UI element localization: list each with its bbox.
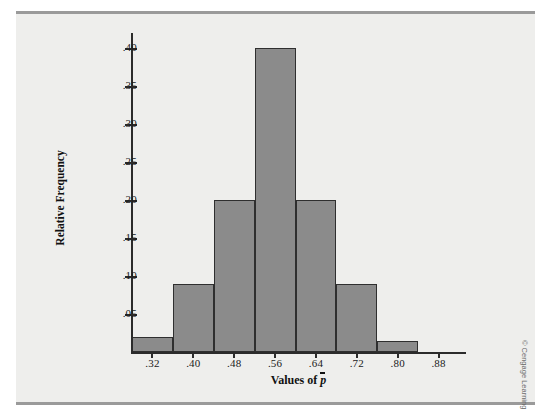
x-axis-tick-label: .48: [214, 357, 254, 369]
y-axis-tick-label: .10: [103, 269, 137, 281]
copyright-credit: © Cengage Learning: [520, 340, 529, 409]
x-axis-line: [131, 352, 466, 354]
histogram-bar: [336, 284, 377, 352]
y-axis-tick-label: .05: [103, 307, 137, 319]
histogram-bar: [173, 284, 214, 352]
histogram-plot: .05.10.15.20.25.30.35.40 .32.40.48.56.64…: [0, 0, 551, 417]
x-axis-tick-label: .32: [132, 357, 172, 369]
histogram-bar: [132, 337, 173, 352]
x-axis-title: Values of p: [131, 373, 466, 388]
x-axis-title-prefix: Values of: [271, 373, 321, 387]
y-axis-tick-label: .30: [103, 117, 137, 129]
x-axis-tick-label: .64: [296, 357, 336, 369]
p-bar-symbol: p: [320, 373, 326, 388]
y-axis-tick-label: .20: [103, 193, 137, 205]
y-axis-tick-label: .40: [103, 41, 137, 53]
x-axis-tick-label: .40: [173, 357, 213, 369]
histogram-bar: [214, 200, 255, 352]
histogram-bar: [255, 48, 296, 352]
x-axis-tick-label: .80: [378, 357, 418, 369]
histogram-bar: [377, 341, 418, 352]
y-axis-tick-label: .15: [103, 231, 137, 243]
x-axis-tick-label: .88: [419, 357, 459, 369]
x-axis-tick-label: .72: [337, 357, 377, 369]
histogram-bar: [296, 200, 337, 352]
x-axis-tick-label: .56: [255, 357, 295, 369]
figure-container: .05.10.15.20.25.30.35.40 .32.40.48.56.64…: [0, 0, 551, 417]
y-axis-title: Relative Frequency: [54, 118, 66, 278]
y-axis-tick-label: .35: [103, 79, 137, 91]
y-axis-tick-label: .25: [103, 155, 137, 167]
